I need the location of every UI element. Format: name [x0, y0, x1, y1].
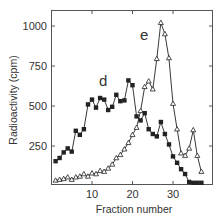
filled-square-marker: [114, 93, 118, 97]
open-triangle-marker: [98, 168, 103, 172]
open-triangle-marker: [122, 147, 127, 151]
open-triangle-marker: [130, 132, 135, 136]
ytick-label: 500: [29, 100, 47, 112]
filled-square-marker: [90, 97, 94, 101]
ytick-label: 750: [29, 60, 47, 72]
filled-square-marker: [195, 181, 199, 185]
chart-container: 250 500 750 1000 10 20 30 Fraction numbe…: [0, 0, 222, 219]
filled-square-marker: [74, 129, 78, 133]
filled-square-marker: [134, 114, 138, 118]
open-triangle-marker: [138, 108, 143, 112]
filled-square-marker: [98, 96, 102, 100]
filled-square-marker: [53, 159, 57, 163]
series-e-line: [53, 20, 204, 182]
ytick-label: 250: [29, 140, 47, 152]
filled-square-marker: [82, 127, 86, 131]
filled-square-marker: [183, 172, 187, 176]
x-axis-title: Fraction number: [96, 203, 173, 215]
filled-square-marker: [102, 97, 106, 101]
ytick-label: 1000: [23, 20, 47, 32]
filled-square-marker: [171, 154, 175, 158]
open-triangle-marker: [154, 56, 159, 60]
filled-square-marker: [151, 132, 155, 136]
open-triangle-marker: [195, 153, 200, 157]
open-triangle-marker: [65, 175, 70, 179]
filled-square-marker: [57, 156, 61, 160]
filled-square-marker: [163, 132, 167, 136]
filled-square-marker: [147, 127, 151, 131]
filled-square-marker: [175, 161, 179, 165]
open-triangle-marker: [191, 127, 196, 131]
open-triangle-marker: [146, 79, 151, 83]
filled-square-marker: [138, 118, 142, 122]
open-triangle-marker: [150, 87, 155, 91]
open-triangle-marker: [187, 146, 192, 150]
open-triangle-marker: [199, 169, 204, 173]
filled-square-marker: [187, 180, 191, 184]
filled-square-marker: [159, 120, 163, 124]
open-triangle-marker: [81, 171, 86, 175]
filled-square-marker: [199, 181, 203, 185]
filled-square-marker: [167, 142, 171, 146]
filled-square-marker: [94, 105, 98, 109]
filled-square-marker: [110, 105, 114, 109]
series-e-label: e: [140, 26, 148, 43]
filled-square-marker: [130, 83, 134, 87]
xtick-label: 30: [167, 188, 179, 200]
filled-square-marker: [179, 167, 183, 171]
filled-square-marker: [70, 149, 74, 153]
filled-square-marker: [118, 99, 122, 103]
open-triangle-marker: [166, 55, 171, 59]
plot-frame: [52, 11, 213, 185]
filled-square-marker: [155, 134, 159, 138]
open-triangle-marker: [126, 140, 131, 144]
open-triangle-marker: [162, 31, 167, 35]
series-d-line: [53, 78, 203, 185]
filled-square-marker: [78, 133, 82, 137]
filled-square-marker: [106, 108, 110, 112]
filled-square-marker: [191, 181, 195, 185]
filled-square-marker: [143, 111, 147, 115]
filled-square-marker: [62, 150, 66, 154]
xtick-label: 10: [86, 188, 98, 200]
open-triangle-marker: [179, 151, 184, 155]
open-triangle-marker: [158, 20, 163, 24]
series-d-label: d: [99, 72, 107, 89]
y-axis-title: Radioactivity (cpm): [7, 55, 19, 144]
filled-square-marker: [122, 98, 126, 102]
open-triangle-marker: [90, 171, 95, 175]
open-triangle-marker: [171, 101, 176, 105]
open-triangle-marker: [134, 125, 139, 129]
open-triangle-marker: [175, 127, 180, 131]
series-e-polyline: [56, 23, 202, 181]
filled-square-marker: [86, 102, 90, 106]
filled-square-marker: [66, 146, 70, 150]
filled-square-marker: [126, 78, 130, 82]
xtick-label: 20: [126, 188, 138, 200]
